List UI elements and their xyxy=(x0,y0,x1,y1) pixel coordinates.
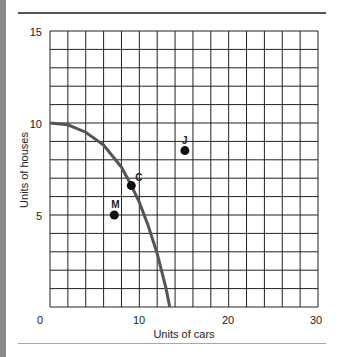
x-tick-10: 10 xyxy=(133,314,145,326)
chart: C M J 15 10 5 0 10 20 30 Units of cars U… xyxy=(0,0,338,357)
point-m: M xyxy=(110,199,120,220)
point-j: J xyxy=(180,135,189,156)
x-tick-0: 0 xyxy=(37,314,43,326)
svg-text:C: C xyxy=(135,172,142,183)
y-tick-5: 5 xyxy=(36,210,42,222)
x-tick-20: 20 xyxy=(222,314,234,326)
svg-text:M: M xyxy=(111,199,119,210)
svg-text:J: J xyxy=(182,135,188,146)
x-tick-30: 30 xyxy=(310,314,322,326)
x-axis-label: Units of cars xyxy=(153,328,215,340)
bottom-rule xyxy=(18,343,326,344)
y-tick-15: 15 xyxy=(30,26,42,38)
y-tick-10: 10 xyxy=(30,118,42,130)
grid xyxy=(50,31,318,307)
y-axis-label: Units of houses xyxy=(18,132,30,208)
